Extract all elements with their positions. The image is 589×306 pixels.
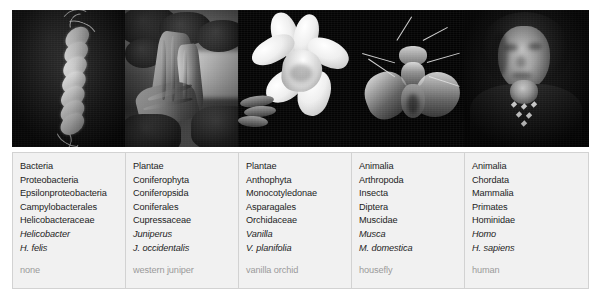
taxonomy-column-orchid: Plantae Anthophyta Monocotyledonae Aspar… <box>238 10 351 289</box>
taxonomy-column-housefly: Animalia Arthropoda Insecta Diptera Musc… <box>351 10 464 289</box>
fly-leg <box>396 17 412 41</box>
common-name: vanilla orchid <box>246 264 362 278</box>
photo-western-juniper <box>125 10 250 147</box>
rank-kingdom: Plantae <box>133 160 249 174</box>
rank-species: J. occidentalis <box>133 242 249 256</box>
rank-phylum: Anthophyta <box>246 174 362 188</box>
common-name: housefly <box>359 264 475 278</box>
taxonomy-box-orchid: Plantae Anthophyta Monocotyledonae Aspar… <box>238 152 363 289</box>
rank-family: Muscidae <box>359 214 475 228</box>
rank-kingdom: Animalia <box>359 160 475 174</box>
taxonomy-column-bacteria: Bacteria Proteobacteria Epsilonproteobac… <box>12 10 125 289</box>
fly-leg <box>423 27 448 41</box>
vanilla-pod <box>238 115 268 128</box>
rank-class: Monocotyledonae <box>246 187 362 201</box>
rank-family: Cupressaceae <box>133 214 249 228</box>
rank-genus: Musca <box>359 228 475 242</box>
rank-species: M. domestica <box>359 242 475 256</box>
rank-family: Hominidae <box>472 214 588 228</box>
rank-class: Mammalia <box>472 187 588 201</box>
rank-genus: Vanilla <box>246 228 362 242</box>
rank-genus: Juniperus <box>133 228 249 242</box>
rank-phylum: Coniferophyta <box>133 174 249 188</box>
taxonomy-box-housefly: Animalia Arthropoda Insecta Diptera Musc… <box>351 152 476 289</box>
rank-order: Primates <box>472 201 588 215</box>
rank-order: Coniferales <box>133 201 249 215</box>
taxonomy-column-human: Animalia Chordata Mammalia Primates Homi… <box>464 10 577 289</box>
rank-phylum: Arthropoda <box>359 174 475 188</box>
rank-order: Diptera <box>359 201 475 215</box>
fly-leg <box>362 53 395 64</box>
rank-class: Insecta <box>359 187 475 201</box>
rank-order: Asparagales <box>246 201 362 215</box>
rank-kingdom: Plantae <box>246 160 362 174</box>
common-name: none <box>20 264 136 278</box>
rank-kingdom: Bacteria <box>20 160 136 174</box>
photo-human <box>464 10 589 147</box>
rank-kingdom: Animalia <box>472 160 588 174</box>
taxonomy-panel-row: Bacteria Proteobacteria Epsilonproteobac… <box>12 10 577 289</box>
rank-phylum: Proteobacteria <box>20 174 136 188</box>
rank-genus: Homo <box>472 228 588 242</box>
photo-housefly <box>351 10 476 147</box>
rank-species: H. sapiens <box>472 242 588 256</box>
taxonomy-column-juniper: Plantae Coniferophyta Coniferopsida Coni… <box>125 10 238 289</box>
rank-genus: Helicobacter <box>20 228 136 242</box>
taxonomy-box-bacteria: Bacteria Proteobacteria Epsilonproteobac… <box>12 152 137 289</box>
photo-vanilla-orchid <box>238 10 363 147</box>
rank-family: Orchidaceae <box>246 214 362 228</box>
taxonomy-box-human: Animalia Chordata Mammalia Primates Homi… <box>464 152 589 289</box>
photo-helicobacter <box>12 10 137 147</box>
rank-phylum: Chordata <box>472 174 588 188</box>
rank-species: H. felis <box>20 242 136 256</box>
rank-family: Helicobacteraceae <box>20 214 136 228</box>
common-name: human <box>472 264 588 278</box>
bacterium-helix-icon <box>12 13 137 147</box>
ground-brush <box>125 114 181 147</box>
common-name: western juniper <box>133 264 249 278</box>
rank-class: Coniferopsida <box>133 187 249 201</box>
fly-leg <box>427 53 460 64</box>
rank-order: Campylobacterales <box>20 201 136 215</box>
taxonomy-box-juniper: Plantae Coniferophyta Coniferopsida Coni… <box>125 152 250 289</box>
rank-class: Epsilonproteobacteria <box>20 187 136 201</box>
rank-species: V. planifolia <box>246 242 362 256</box>
